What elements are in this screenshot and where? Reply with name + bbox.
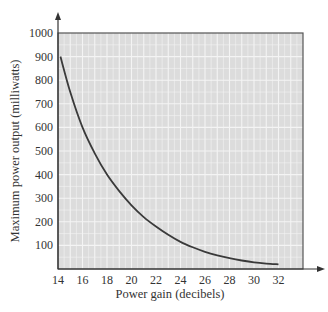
y-tick-label: 100 (35, 238, 53, 252)
y-tick-label: 1000 (29, 26, 53, 40)
x-axis-arrow-icon (317, 266, 325, 272)
y-axis-arrow-icon (55, 12, 61, 20)
y-tick-label: 400 (35, 168, 53, 182)
y-tick-label: 800 (35, 73, 53, 87)
y-tick-label: 600 (35, 120, 53, 134)
x-tick-label: 14 (52, 273, 64, 287)
x-tick-label: 20 (126, 273, 138, 287)
x-axis-title: Power gain (decibels) (116, 287, 225, 301)
x-tick-label: 32 (273, 273, 285, 287)
y-tick-label: 700 (35, 97, 53, 111)
y-tick-labels: 1002003004005006007008009001000 (29, 26, 53, 252)
x-tick-label: 16 (77, 273, 89, 287)
chart: 14161820222426283032 1002003004005006007… (0, 0, 328, 312)
x-tick-label: 30 (248, 273, 260, 287)
x-tick-label: 18 (101, 273, 113, 287)
y-tick-label: 900 (35, 50, 53, 64)
x-tick-label: 22 (150, 273, 162, 287)
y-tick-label: 200 (35, 215, 53, 229)
y-axis-title: Maximum power output (milliwatts) (8, 60, 22, 243)
x-tick-label: 26 (199, 273, 211, 287)
x-tick-label: 24 (175, 273, 187, 287)
y-tick-label: 300 (35, 191, 53, 205)
x-tick-labels: 14161820222426283032 (52, 273, 285, 287)
y-tick-label: 500 (35, 144, 53, 158)
x-tick-label: 28 (224, 273, 236, 287)
grid-lines (58, 33, 303, 269)
